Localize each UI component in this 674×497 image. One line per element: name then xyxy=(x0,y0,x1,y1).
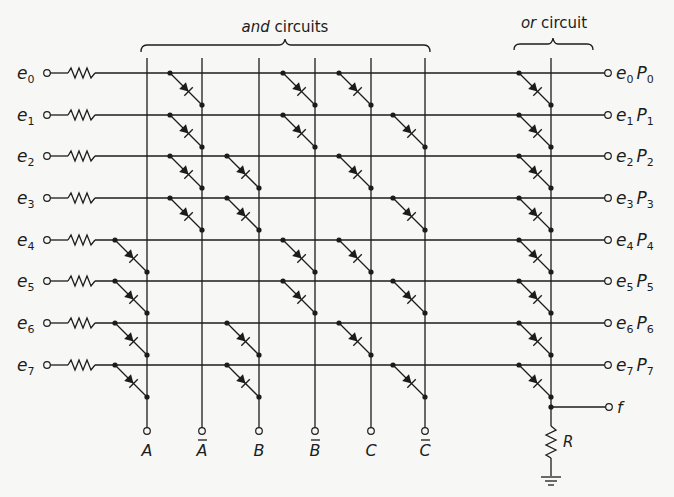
and-diode xyxy=(390,195,427,232)
input-resistor xyxy=(68,318,95,328)
output-terminal[interactable] xyxy=(605,362,612,369)
input-terminal[interactable] xyxy=(44,362,51,369)
or-diode xyxy=(516,112,553,149)
input-terminal[interactable] xyxy=(44,278,51,285)
input-row-e5: e5e5P5 xyxy=(17,271,654,294)
column-A-bar: A xyxy=(196,58,208,460)
or-diode xyxy=(516,320,553,357)
and-diode xyxy=(390,278,427,315)
column-terminal[interactable] xyxy=(312,428,319,435)
input-label: e0 xyxy=(17,63,34,86)
and-diode xyxy=(224,320,261,357)
and-diode xyxy=(390,112,427,149)
and-diode xyxy=(167,112,204,149)
input-row-e1: e1e1P1 xyxy=(17,105,654,128)
or-circuit-label: or circuit xyxy=(521,14,587,32)
column-label: B xyxy=(254,441,265,460)
column-label: C xyxy=(419,441,431,460)
input-label: e2 xyxy=(17,146,34,169)
resistor-label: R xyxy=(563,433,573,451)
input-resistor xyxy=(68,151,95,161)
output-terminal[interactable] xyxy=(605,278,612,285)
input-terminal[interactable] xyxy=(44,70,51,77)
column-A: A xyxy=(141,58,153,460)
input-label: e5 xyxy=(17,271,34,294)
or-diode xyxy=(516,70,553,107)
column-label: A xyxy=(196,441,208,460)
f-label: f xyxy=(617,398,625,417)
input-resistor xyxy=(68,68,95,78)
and-diode xyxy=(224,362,261,399)
output-terminal[interactable] xyxy=(605,195,612,202)
output-label: e7P7 xyxy=(616,355,654,378)
or-circuit-bracket xyxy=(514,38,593,50)
output-terminal[interactable] xyxy=(605,320,612,327)
or-diode xyxy=(516,362,553,399)
output-terminal[interactable] xyxy=(605,153,612,160)
and-diode xyxy=(167,153,204,190)
input-resistor xyxy=(68,235,95,245)
input-row-e2: e2e2P2 xyxy=(17,146,654,169)
and-diode xyxy=(112,237,149,274)
input-row-e6: e6e6P6 xyxy=(17,313,654,336)
or-bus xyxy=(516,58,553,407)
output-label: e1P1 xyxy=(616,105,654,128)
output-terminal[interactable] xyxy=(605,112,612,119)
or-diode xyxy=(516,237,553,274)
input-row-e3: e3e3P3 xyxy=(17,188,654,211)
input-label: e3 xyxy=(17,188,34,211)
or-diode xyxy=(516,153,553,190)
and-diode xyxy=(336,70,373,107)
input-label: e4 xyxy=(17,230,34,253)
input-row-e7: e7e7P7 xyxy=(17,355,654,378)
column-terminal[interactable] xyxy=(422,428,429,435)
or-diode xyxy=(516,278,553,315)
input-terminal[interactable] xyxy=(44,195,51,202)
and-diode xyxy=(336,237,373,274)
and-diode xyxy=(112,362,149,399)
and-diode xyxy=(280,278,317,315)
input-resistor xyxy=(68,360,95,370)
ground-icon xyxy=(541,477,561,485)
output-label: e4P4 xyxy=(616,230,654,253)
and-diode xyxy=(112,278,149,315)
and-diode xyxy=(224,195,261,232)
column-C-bar: C xyxy=(419,58,431,460)
input-label: e6 xyxy=(17,313,34,336)
column-label: C xyxy=(365,441,377,460)
input-terminal[interactable] xyxy=(44,237,51,244)
input-terminal[interactable] xyxy=(44,153,51,160)
input-row-e0: e0e0P0 xyxy=(17,63,654,86)
and-diodes xyxy=(112,70,427,399)
and-diode xyxy=(167,195,204,232)
input-resistor xyxy=(68,110,95,120)
or-diode xyxy=(516,195,553,232)
and-diode xyxy=(336,153,373,190)
input-label: e1 xyxy=(17,105,34,128)
column-terminal[interactable] xyxy=(199,428,206,435)
output-label: e6P6 xyxy=(616,313,654,336)
column-terminal[interactable] xyxy=(144,428,151,435)
input-rows: e0e0P0e1e1P1e2e2P2e3e3P3e4e4P4e5e5P5e6e6… xyxy=(17,63,654,378)
column-terminal[interactable] xyxy=(256,428,263,435)
decoder-circuit-diagram: and circuits or circuit e0e0P0e1e1P1e2e2… xyxy=(0,0,674,497)
f-output-terminal[interactable]: f xyxy=(548,398,625,417)
input-resistor xyxy=(68,193,95,203)
output-label: e2P2 xyxy=(616,146,654,169)
and-diode xyxy=(224,153,261,190)
input-terminal[interactable] xyxy=(44,320,51,327)
input-row-e4: e4e4P4 xyxy=(17,230,654,253)
pulldown-resistor: R xyxy=(546,407,573,476)
and-circuits-bracket xyxy=(141,39,430,52)
column-label: B xyxy=(310,441,321,460)
and-diode xyxy=(280,237,317,274)
output-terminal[interactable] xyxy=(605,237,612,244)
column-B-bar: B xyxy=(310,58,321,460)
column-terminal[interactable] xyxy=(368,428,375,435)
output-terminal[interactable] xyxy=(605,70,612,77)
input-terminal[interactable] xyxy=(44,112,51,119)
input-label: e7 xyxy=(17,355,34,378)
and-diode xyxy=(167,70,204,107)
input-resistor xyxy=(68,276,95,286)
output-label: e3P3 xyxy=(616,188,654,211)
